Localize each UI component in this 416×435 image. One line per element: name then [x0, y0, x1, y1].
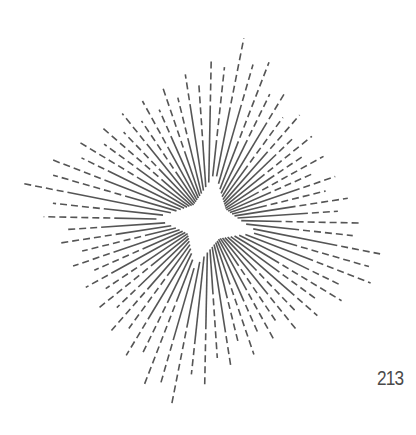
ray-dashed-segment: [303, 177, 335, 188]
ray-dashed-segment: [271, 191, 326, 205]
ray-solid-segment: [206, 253, 208, 330]
ray-solid-segment: [231, 237, 280, 273]
ray-dashed-segment: [283, 275, 315, 299]
ray-dashed-segment: [104, 144, 133, 165]
ray-dashed-segment: [78, 141, 134, 175]
starburst-illustration: [0, 0, 416, 435]
ray-dashed-segment: [270, 115, 299, 149]
ray-dashed-segment: [242, 65, 253, 101]
ray-dashed-segment: [246, 305, 258, 333]
ray-dashed-segment: [275, 173, 315, 191]
ray-dashed-segment: [81, 158, 104, 169]
ray-solid-segment: [225, 174, 265, 206]
ray-dashed-segment: [24, 184, 64, 192]
ray-solid-segment: [101, 223, 165, 227]
ray-dashed-segment: [278, 155, 305, 173]
ray-solid-segment: [230, 189, 300, 213]
ray-dashed-segment: [172, 331, 186, 404]
ray-dashed-segment: [279, 137, 294, 152]
ray-dashed-segment: [44, 217, 111, 218]
ray-solid-segment: [147, 241, 189, 289]
ray-solid-segment: [116, 226, 172, 235]
ray-dashed-segment: [185, 74, 189, 100]
ray-solid-segment: [114, 218, 156, 219]
page-number: 213: [377, 366, 403, 390]
ray-solid-segment: [104, 180, 180, 210]
ray-dashed-segment: [317, 262, 371, 283]
ray-dashed-segment: [143, 306, 166, 352]
ray-solid-segment: [209, 105, 211, 182]
ray-dashed-segment: [299, 198, 347, 206]
ray-dashed-segment: [231, 38, 244, 103]
ray-dashed-segment: [313, 271, 339, 284]
ray-dashed-segment: [213, 298, 217, 358]
ray-dashed-segment: [191, 348, 194, 374]
ray-solid-segment: [241, 221, 281, 222]
ray-dashed-segment: [73, 254, 110, 267]
ray-dashed-segment: [53, 203, 100, 208]
ray-dashed-segment: [312, 211, 338, 213]
ray-solid-segment: [195, 257, 204, 345]
ray-dashed-segment: [228, 302, 238, 344]
ray-dashed-segment: [160, 344, 172, 384]
ray-solid-segment: [148, 249, 191, 320]
ray-dashed-segment: [210, 58, 211, 101]
ray-dashed-segment: [68, 227, 97, 229]
ray-dashed-segment: [86, 275, 108, 287]
ray-dashed-segment: [217, 67, 224, 136]
ray-dashed-segment: [82, 237, 141, 252]
starburst-rays: [24, 38, 380, 405]
ray-dashed-segment: [117, 290, 136, 308]
ray-dashed-segment: [262, 156, 323, 190]
ray-dashed-segment: [111, 292, 144, 330]
ray-dashed-segment: [241, 269, 276, 321]
ray-dashed-segment: [199, 84, 203, 136]
ray-dashed-segment: [59, 235, 111, 243]
ray-dashed-segment: [178, 98, 187, 135]
ray-solid-segment: [210, 249, 213, 294]
ray-dashed-segment: [122, 114, 144, 141]
ray-dashed-segment: [249, 94, 270, 136]
ray-solid-segment: [225, 238, 257, 271]
ray-dashed-segment: [106, 268, 137, 289]
ray-dashed-segment: [205, 333, 206, 384]
ray-solid-segment: [212, 247, 225, 332]
ray-dashed-segment: [142, 101, 165, 143]
ray-solid-segment: [190, 104, 203, 190]
ray-dashed-segment: [94, 251, 139, 271]
ray-dashed-segment: [303, 230, 353, 235]
ray-dashed-segment: [297, 298, 317, 315]
ray-dashed-segment: [286, 222, 363, 224]
ray-dashed-segment: [341, 246, 380, 254]
ray-dashed-segment: [159, 110, 169, 133]
ray-dashed-segment: [101, 127, 158, 177]
ray-dashed-segment: [269, 91, 286, 119]
ray-solid-segment: [140, 234, 187, 266]
ray-dashed-segment: [226, 336, 231, 368]
ray-dashed-segment: [270, 297, 295, 328]
ray-dashed-segment: [163, 88, 183, 147]
ray-solid-segment: [213, 140, 217, 176]
ray-solid-segment: [203, 140, 206, 187]
